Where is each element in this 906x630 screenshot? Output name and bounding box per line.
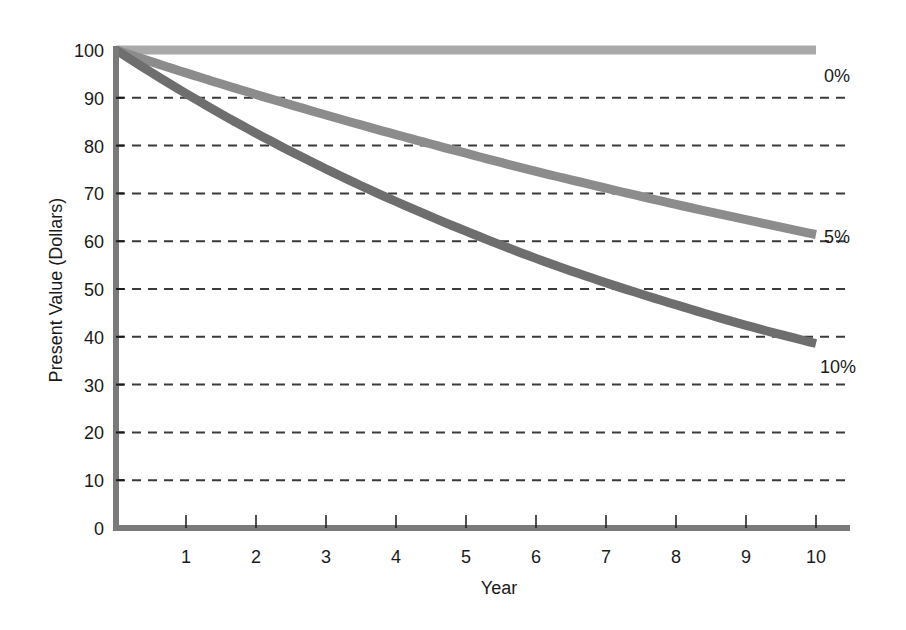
x-tick-label: 9	[741, 547, 751, 567]
y-tick-label: 100	[74, 41, 104, 61]
series-label-5pct: 5%	[824, 227, 850, 247]
x-tick-label: 6	[531, 547, 541, 567]
x-tick-label: 7	[601, 547, 611, 567]
y-tick-label: 50	[84, 280, 104, 300]
x-axis-title: Year	[481, 578, 517, 598]
y-tick-label: 80	[84, 137, 104, 157]
x-tick-label: 4	[391, 547, 401, 567]
x-tick-label: 8	[671, 547, 681, 567]
y-tick-label: 90	[84, 89, 104, 109]
series-lines	[116, 50, 816, 344]
y-tick-label: 0	[94, 519, 104, 539]
x-tick-label: 3	[321, 547, 331, 567]
x-tick-label: 2	[251, 547, 261, 567]
y-tick-label: 30	[84, 376, 104, 396]
series-label-0pct: 0%	[824, 66, 850, 86]
y-tick-label: 20	[84, 423, 104, 443]
present-value-chart: 0102030405060708090100 12345678910 0%5%1…	[0, 0, 906, 630]
series-label-10pct: 10%	[820, 357, 856, 377]
y-tick-label: 70	[84, 184, 104, 204]
series-end-labels: 0%5%10%	[820, 66, 856, 377]
y-tick-label: 10	[84, 471, 104, 491]
x-tick-label: 5	[461, 547, 471, 567]
y-axis-title: Present Value (Dollars)	[46, 198, 66, 383]
x-tick-label: 1	[181, 547, 191, 567]
x-tick-label: 10	[806, 547, 826, 567]
y-tick-label: 60	[84, 232, 104, 252]
y-tick-label: 40	[84, 328, 104, 348]
series-line-10pct	[116, 50, 816, 344]
x-axis-ticks: 12345678910	[181, 515, 826, 567]
series-line-5pct	[116, 50, 816, 235]
